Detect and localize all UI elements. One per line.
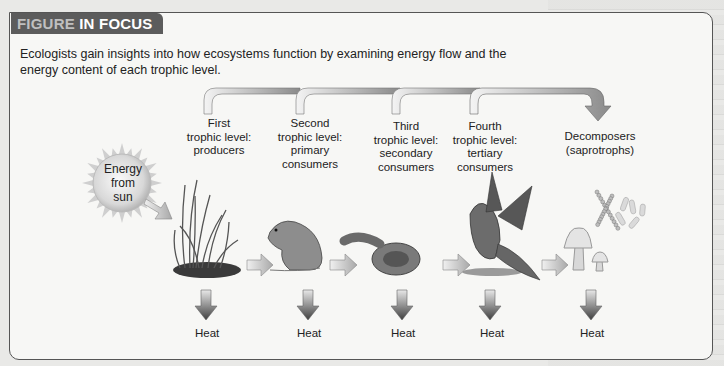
- producer-to-primary-arrow: [247, 254, 273, 276]
- level-label-tertiary-consumers: Fourth trophic level: tertiary consumers: [445, 120, 525, 174]
- sun-ray: [82, 180, 94, 187]
- heat-arrow: [391, 290, 413, 320]
- heat-label: Heat: [480, 327, 504, 339]
- bacteria-bead: [616, 226, 620, 230]
- heat-arrow: [580, 290, 602, 320]
- sun-ray: [119, 211, 126, 223]
- level-label-secondary-consumers: Third trophic level: secondary consumers: [366, 120, 446, 174]
- decomposer-flow-arrows: [204, 88, 611, 121]
- flow-arc-1: [204, 88, 300, 114]
- primary-to-secondary-arrow: [330, 254, 357, 276]
- level-label-decomposers: Decomposers (saprotrophs): [560, 130, 640, 157]
- sun-label: Energy from sun: [104, 162, 142, 204]
- heat-arrow: [297, 290, 319, 320]
- heat-arrow: [195, 290, 217, 320]
- heat-label: Heat: [391, 327, 415, 339]
- heat-arrow: [479, 290, 501, 320]
- sun-ray: [119, 143, 126, 155]
- bacteria-bead: [596, 223, 600, 227]
- hawk-icon: [462, 172, 540, 280]
- heat-label: Heat: [195, 327, 219, 339]
- heat-loss-arrows: [195, 290, 602, 320]
- level-label-producers: First trophic level: producers: [184, 117, 254, 158]
- sun-ray: [150, 180, 162, 187]
- sun-to-producer-arrow: [144, 199, 172, 219]
- grass-icon: [173, 180, 241, 278]
- level-label-primary-consumers: Second trophic level: primary consumers: [270, 117, 350, 171]
- flow-arc-4: [470, 88, 611, 121]
- flow-arc-3: [392, 88, 480, 114]
- tertiary-to-decomposer-arrow: [542, 254, 568, 276]
- heat-label: Heat: [297, 327, 321, 339]
- snake-icon: [344, 237, 420, 275]
- heat-label: Heat: [580, 327, 604, 339]
- decomposers-icon: [564, 190, 646, 271]
- flow-arc-2: [296, 88, 400, 114]
- mouse-icon: [268, 221, 322, 271]
